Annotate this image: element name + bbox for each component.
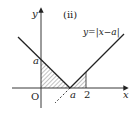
x-tick-2: 2 <box>84 89 90 100</box>
y-axis-label: y <box>31 8 38 19</box>
function-label: y=|x−a| <box>82 27 120 38</box>
x-axis-label: x <box>123 89 129 100</box>
x-tick-a: a <box>70 89 76 100</box>
graph-right-branch <box>70 34 124 88</box>
y-tick-a: a <box>33 55 39 66</box>
dashed-extension <box>55 88 70 103</box>
origin-label: O <box>31 91 39 102</box>
graph-diagram: (ii) y y=|x−a| a O a 2 x <box>0 0 131 116</box>
panel-label: (ii) <box>63 9 77 20</box>
